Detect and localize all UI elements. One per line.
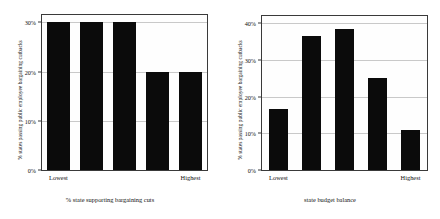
- chart-panel-right: % states passing public employee bargain…: [220, 0, 440, 219]
- figure: % states passing public employee bargain…: [0, 0, 440, 219]
- bar: [401, 130, 419, 170]
- bar: [179, 72, 202, 170]
- y-axis-tick-mark: [258, 60, 262, 61]
- plot-area-right: 0%10%20%30%40%LowestHighest: [261, 15, 428, 171]
- x-axis-title-left: % state supporting bargaining cuts: [0, 196, 220, 203]
- y-axis-tick-mark: [38, 22, 42, 23]
- y-axis-title-left: % states passing public employee bargain…: [14, 14, 26, 186]
- bar: [146, 72, 169, 170]
- bar: [335, 29, 353, 170]
- plot-area-left: 0%10%20%30%LowestHighest: [41, 14, 208, 171]
- y-axis-tick-mark: [38, 170, 42, 171]
- y-axis-tick-mark: [38, 120, 42, 121]
- y-axis-tick-mark: [38, 71, 42, 72]
- bar: [47, 22, 70, 170]
- bar: [80, 22, 103, 170]
- bar: [302, 36, 320, 170]
- bar: [113, 22, 136, 170]
- gridline: [262, 23, 427, 24]
- bar: [269, 109, 287, 170]
- x-axis-title-right: state budget balance: [220, 196, 440, 203]
- x-axis-tick-label-right: Lowest: [269, 174, 288, 181]
- y-axis-tick-mark: [258, 133, 262, 134]
- x-axis-tick-label-left: Lowest: [49, 174, 68, 181]
- y-axis-tick-mark: [258, 23, 262, 24]
- x-axis-tick-label-right: Highest: [401, 174, 421, 181]
- chart-panel-left: % states passing public employee bargain…: [0, 0, 220, 219]
- y-axis-tick-mark: [258, 96, 262, 97]
- x-axis-tick-label-left: Highest: [181, 174, 201, 181]
- y-axis-tick-mark: [258, 170, 262, 171]
- bar: [368, 78, 386, 170]
